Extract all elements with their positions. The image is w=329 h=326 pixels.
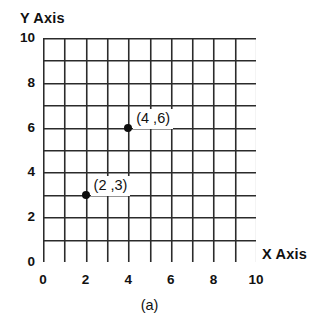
- y-tick-label: 0: [9, 254, 35, 269]
- data-point-marker: [82, 191, 90, 199]
- y-tick-label: 2: [9, 209, 35, 224]
- x-tick-label: 6: [158, 272, 184, 287]
- plot-area: (4 ,6)(2 ,3): [43, 38, 256, 262]
- y-tick-label: 8: [9, 75, 35, 90]
- x-tick-label: 2: [73, 272, 99, 287]
- y-tick-label: 10: [9, 30, 35, 45]
- x-tick-label: 8: [200, 272, 226, 287]
- figure-caption: (a): [0, 297, 329, 313]
- data-point-label: (2 ,3): [91, 176, 131, 196]
- coordinate-plane-figure: Y Axis X Axis 0246810 0246810 (4 ,6)(2 ,…: [0, 0, 329, 326]
- x-tick-label: 0: [30, 272, 56, 287]
- grid-lines: [43, 38, 256, 262]
- y-tick-label: 4: [9, 164, 35, 179]
- x-tick-label: 10: [243, 272, 269, 287]
- y-tick-label: 6: [9, 120, 35, 135]
- x-axis-title: X Axis: [262, 246, 307, 262]
- figure-caption-text: (a): [141, 297, 159, 313]
- data-point-label: (4 ,6): [133, 109, 173, 129]
- data-point-marker: [124, 124, 132, 132]
- x-tick-label: 4: [115, 272, 141, 287]
- y-axis-title: Y Axis: [20, 10, 65, 26]
